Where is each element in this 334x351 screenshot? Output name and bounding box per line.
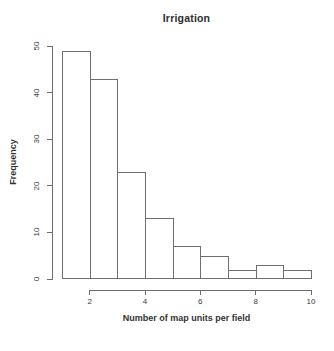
y-axis-tick: [47, 46, 52, 47]
y-axis-tick: [47, 185, 52, 186]
y-axis-tick-label: 10: [31, 226, 43, 238]
x-axis-tick-label: 10: [301, 297, 321, 306]
histogram-bar: [117, 172, 146, 279]
x-axis-tick-label: 2: [80, 297, 100, 306]
y-axis-tick: [47, 232, 52, 233]
y-axis-label: Frequency: [7, 117, 19, 207]
plot-area: [62, 46, 311, 279]
y-axis-tick-label: 0: [31, 273, 43, 285]
y-axis-tick-label: 30: [31, 133, 43, 145]
y-axis-tick-label: 50: [31, 40, 43, 52]
y-axis-tick-label: 40: [31, 87, 43, 99]
histogram-bar: [62, 51, 91, 279]
x-axis-label: Number of map units per field: [62, 313, 311, 323]
y-axis-tick: [47, 279, 52, 280]
histogram-bar: [256, 265, 285, 279]
y-axis-line: [52, 46, 53, 280]
histogram-bar: [283, 270, 312, 279]
histogram-bar: [200, 256, 229, 279]
y-axis-tick: [47, 139, 52, 140]
histogram-bar: [145, 218, 174, 279]
histogram-bar: [173, 246, 202, 279]
chart-title: Irrigation: [62, 12, 311, 24]
x-axis-tick: [145, 290, 146, 295]
y-axis-tick-label: 20: [31, 180, 43, 192]
x-axis-tick: [255, 290, 256, 295]
y-axis-tick: [47, 92, 52, 93]
histogram-figure: Irrigation Frequency 01020304050 246810 …: [0, 0, 334, 351]
histogram-bar: [228, 270, 257, 279]
x-axis-tick: [89, 290, 90, 295]
x-axis-tick-label: 4: [135, 297, 155, 306]
x-axis-tick: [200, 290, 201, 295]
x-axis-tick-label: 8: [246, 297, 266, 306]
histogram-bar: [90, 79, 119, 279]
x-axis-tick: [311, 290, 312, 295]
x-axis-tick-label: 6: [190, 297, 210, 306]
